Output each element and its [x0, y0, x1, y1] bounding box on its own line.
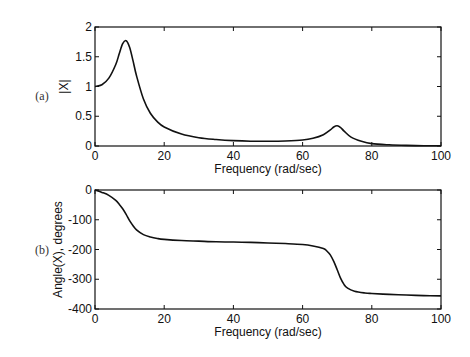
x-tick-label: 80 [365, 312, 379, 326]
y-tick-label: -100 [68, 213, 92, 227]
x-tick-label: 100 [431, 149, 451, 163]
y-tick-label: 0 [85, 183, 92, 197]
phase-plot: 020406080100-400-300-200-1000Frequency (… [35, 183, 451, 339]
y-tick-label: -300 [68, 272, 92, 286]
x-tick-label: 40 [227, 149, 241, 163]
x-tick-label: 60 [296, 149, 310, 163]
panel-label: (a) [35, 89, 48, 103]
figure: 02040608010000.511.52Frequency (rad/sec)… [0, 0, 470, 357]
axes-box [95, 27, 441, 146]
x-tick-label: 20 [158, 312, 172, 326]
y-tick-label: 0 [85, 139, 92, 153]
x-tick-label: 0 [92, 149, 99, 163]
y-axis-label: Angle(X), degrees [51, 201, 65, 298]
magnitude-plot: 02040608010000.511.52Frequency (rad/sec)… [35, 20, 451, 176]
x-axis-label: Frequency (rad/sec) [214, 162, 321, 176]
x-tick-label: 100 [431, 312, 451, 326]
data-curve [95, 41, 441, 146]
x-tick-label: 0 [92, 312, 99, 326]
y-tick-label: 1 [85, 80, 92, 94]
y-tick-label: -200 [68, 243, 92, 257]
y-axis-label: |X| [57, 79, 71, 93]
x-tick-label: 60 [296, 312, 310, 326]
x-tick-label: 20 [158, 149, 172, 163]
x-axis-label: Frequency (rad/sec) [214, 325, 321, 339]
y-tick-label: 1.5 [75, 50, 92, 64]
y-tick-label: -400 [68, 302, 92, 316]
y-tick-label: 2 [85, 20, 92, 34]
x-tick-label: 40 [227, 312, 241, 326]
data-curve [95, 190, 441, 296]
axes-box [95, 190, 441, 309]
panel-label: (b) [35, 243, 49, 257]
x-tick-label: 80 [365, 149, 379, 163]
y-tick-label: 0.5 [75, 109, 92, 123]
